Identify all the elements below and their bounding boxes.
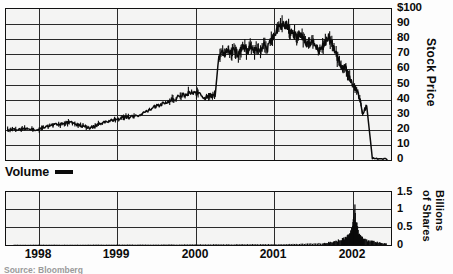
price-ytick-60: 60	[397, 63, 409, 75]
volume-ytick-0point5: 0.5	[397, 220, 412, 231]
price-ytick-90: 90	[397, 17, 409, 29]
volume-legend-label: Volume	[5, 166, 49, 179]
price-ytick-100: $100	[397, 2, 422, 14]
price-axis-title: Stock Price	[424, 38, 438, 107]
price-ytick-10: 10	[397, 138, 409, 150]
volume-legend: Volume	[5, 166, 73, 179]
volume-line-swatch	[55, 170, 73, 174]
price-ytick-80: 80	[397, 32, 409, 44]
source-caption: Source: Bloomberg	[4, 266, 83, 274]
volume-chart-plot-area	[5, 191, 392, 246]
price-ytick-40: 40	[397, 93, 409, 105]
xtick-2001: 2001	[260, 248, 287, 260]
volume-ytick-1: 1	[397, 203, 403, 214]
volume-axis-title-line2: of Shares	[421, 190, 433, 242]
stock-chart-figure: $100 90 80 70 60 50 40 30 20 10 0 Stock …	[0, 0, 453, 274]
volume-ytick-1point5: 1.5	[397, 186, 412, 197]
price-chart-plot-area	[5, 8, 392, 161]
xtick-2002: 2002	[339, 248, 366, 260]
price-ytick-20: 20	[397, 123, 409, 135]
volume-bar-series	[6, 192, 391, 245]
price-ytick-50: 50	[397, 78, 409, 90]
price-ytick-70: 70	[397, 48, 409, 60]
price-ytick-0: 0	[397, 153, 403, 165]
xtick-2000: 2000	[182, 248, 209, 260]
volume-axis-title-line1: Billions	[434, 190, 446, 231]
volume-ytick-0: 0	[397, 239, 403, 250]
price-line-series	[6, 9, 391, 160]
xtick-1999: 1999	[103, 248, 130, 260]
price-ytick-30: 30	[397, 108, 409, 120]
xtick-1998: 1998	[25, 248, 52, 260]
